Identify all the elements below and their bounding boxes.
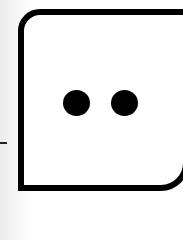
die-face — [18, 9, 183, 191]
edge-tick-mark — [0, 142, 7, 144]
pip-dot-icon — [63, 90, 90, 116]
pip-dot-icon — [111, 90, 138, 116]
